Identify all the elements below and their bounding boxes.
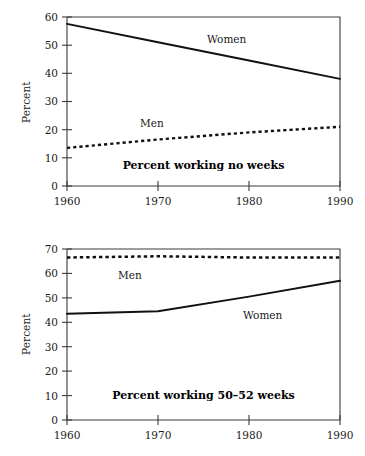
series-annotation-women: Women	[207, 33, 246, 45]
y-tick-label-70: 70	[32, 243, 58, 255]
y-tick-label-20: 20	[32, 365, 58, 377]
x-tick-label-1990: 1990	[320, 195, 360, 207]
x-tick-label-1980: 1980	[229, 195, 269, 207]
y-tick-label-20: 20	[32, 124, 58, 136]
y-tick-label-0: 0	[32, 180, 58, 192]
x-tick-label-1990: 1990	[320, 429, 360, 441]
chart-panel-no-weeks: Percent 60 50 40 30 20 10 0 1960 1970 19…	[0, 0, 365, 228]
x-tick-label-1980: 1980	[229, 429, 269, 441]
y-tick-label-60: 60	[32, 267, 58, 279]
chart-panel-50-52-weeks: Percent 70 60 50 40 30 20 10 0 1960 1970…	[0, 228, 365, 456]
x-tick-label-1960: 1960	[47, 195, 87, 207]
series-annotation-women: Women	[243, 309, 282, 321]
plot-area-no-weeks	[0, 0, 365, 228]
series-line-women	[67, 281, 340, 314]
y-tick-label-50: 50	[32, 39, 58, 51]
series-line-men	[67, 256, 340, 257]
y-tick-label-10: 10	[32, 390, 58, 402]
y-axis-label: Percent	[20, 313, 32, 355]
series-annotation-men: Men	[118, 269, 142, 281]
figure-root: Percent 60 50 40 30 20 10 0 1960 1970 19…	[0, 0, 365, 456]
y-tick-label-30: 30	[32, 95, 58, 107]
y-tick-label-10: 10	[32, 152, 58, 164]
y-axis-label: Percent	[20, 81, 32, 123]
y-tick-label-0: 0	[32, 414, 58, 426]
x-tick-label-1970: 1970	[138, 429, 178, 441]
series-line-men	[67, 127, 340, 148]
plot-title-no-weeks: Percent working no weeks	[67, 159, 340, 172]
series-line-women	[67, 24, 340, 79]
y-tick-label-40: 40	[32, 316, 58, 328]
plot-title-50-52-weeks: Percent working 50–52 weeks	[67, 389, 340, 402]
series-annotation-men: Men	[140, 117, 164, 129]
x-tick-label-1960: 1960	[47, 429, 87, 441]
y-tick-label-60: 60	[32, 11, 58, 23]
y-tick-label-40: 40	[32, 67, 58, 79]
y-tick-label-50: 50	[32, 292, 58, 304]
x-tick-label-1970: 1970	[138, 195, 178, 207]
y-tick-label-30: 30	[32, 341, 58, 353]
